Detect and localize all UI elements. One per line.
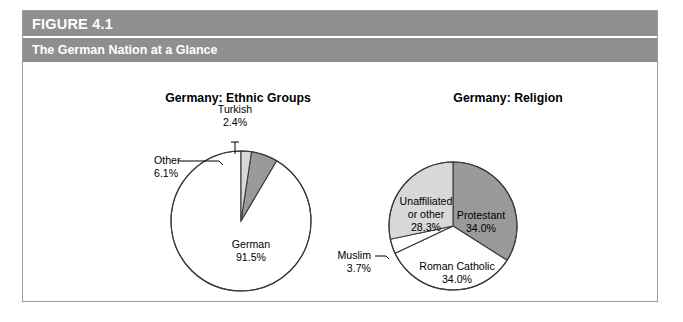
protestant-label-value: 34.0% — [466, 222, 497, 234]
unaffiliated-label-line1: Unaffiliated — [400, 195, 453, 207]
pie-charts-svg: Other 6.1% Turkish 2.4% German 91.5% — [23, 62, 659, 303]
roman-catholic-label-name: Roman Catholic — [419, 260, 495, 272]
german-label-name: German — [232, 238, 270, 250]
figure-container: FIGURE 4.1 The German Nation at a Glance… — [22, 10, 658, 302]
charts-area: Germany: Ethnic Groups Germany: Religion… — [23, 62, 657, 301]
unaffiliated-label-line2: or other — [408, 208, 445, 220]
turkish-label-name: Turkish — [218, 103, 252, 115]
muslim-leader-hook — [386, 256, 389, 259]
ethnic-groups-pie-chart: Other 6.1% Turkish 2.4% German 91.5% — [154, 103, 311, 291]
roman-catholic-label-value: 34.0% — [442, 273, 473, 285]
religion-pie-chart: Protestant 34.0% Roman Catholic 34.0% Un… — [337, 162, 517, 290]
turkish-label-value: 2.4% — [223, 116, 248, 128]
figure-number-band: FIGURE 4.1 — [23, 11, 657, 36]
other-label-value: 6.1% — [154, 167, 179, 179]
muslim-label-value: 3.7% — [347, 262, 372, 274]
figure-title-band: The German Nation at a Glance — [23, 38, 657, 62]
figure-title-label: The German Nation at a Glance — [32, 43, 217, 57]
figure-number-label: FIGURE 4.1 — [32, 16, 113, 32]
muslim-label-name: Muslim — [337, 249, 371, 261]
protestant-label-name: Protestant — [457, 209, 505, 221]
other-label-name: Other — [154, 154, 181, 166]
unaffiliated-label-value: 28.3% — [411, 221, 442, 233]
german-label-value: 91.5% — [236, 251, 267, 263]
